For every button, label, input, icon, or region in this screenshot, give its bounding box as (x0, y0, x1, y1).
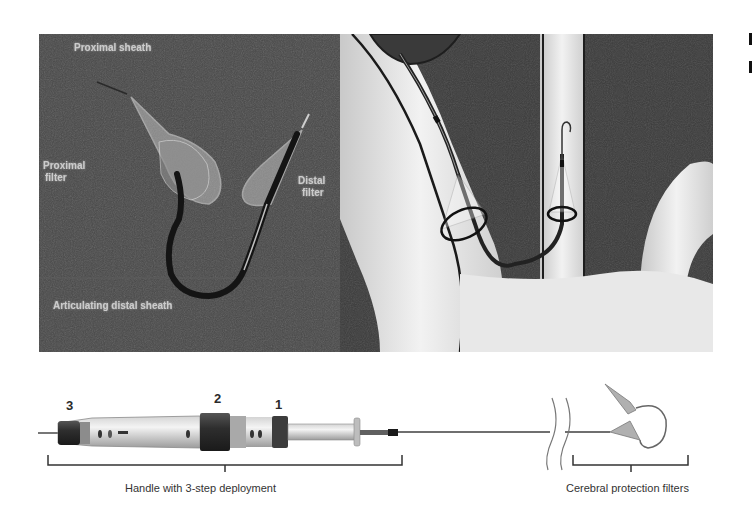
device-photo-fluoroscopy: Proximal sheath Proximal filter Distal f… (39, 34, 340, 352)
break-mark-icon (547, 398, 556, 470)
handle-caption: Handle with 3-step deployment (125, 482, 276, 494)
label-distal-filter-line1: Distal (298, 175, 325, 187)
bracket-handle (48, 455, 402, 465)
label-proximal-filter-line2: filter (45, 172, 67, 184)
cerebral-protection-filters (605, 384, 666, 448)
label-proximal-filter-line1: Proximal (43, 160, 85, 172)
filters-caption: Cerebral protection filters (566, 482, 689, 494)
bracket-filters (573, 455, 688, 465)
deployment-handle (58, 413, 398, 451)
aortic-arch-illustration (340, 34, 713, 352)
label-articulating-distal-sheath: Articulating distal sheath (53, 300, 172, 312)
anatomy-illustration (340, 34, 713, 352)
label-distal-filter-line2: filter (302, 187, 324, 199)
label-proximal-sheath: Proximal sheath (74, 42, 151, 54)
